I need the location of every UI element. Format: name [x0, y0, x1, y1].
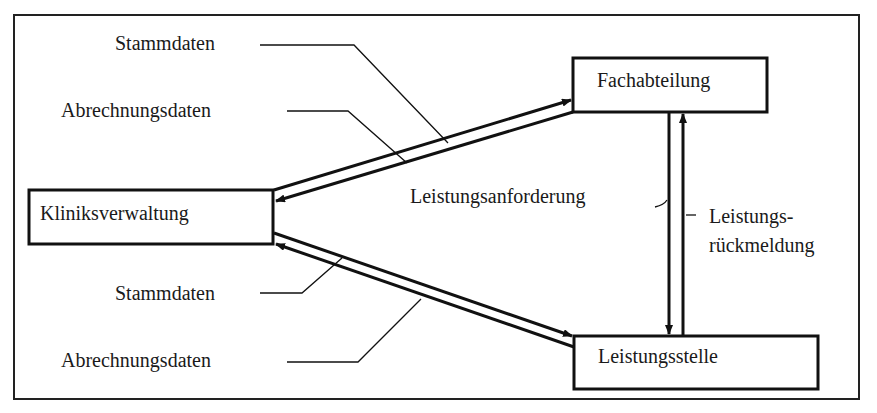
label-bottom-stammdaten: Stammdaten [115, 282, 215, 304]
leader-bottom-abrechnung [287, 299, 421, 362]
label-leistungsanforderung: Leistungsanforderung [410, 185, 586, 208]
label-leistungsrueckmeldung-2: rückmeldung [709, 234, 815, 257]
node-leistungsstelle[interactable]: Leistungsstelle [574, 336, 818, 389]
node-fachabteilung-label: Fachabteilung [597, 69, 710, 92]
label-bottom-abrechnungsdaten: Abrechnungsdaten [61, 349, 211, 372]
node-kliniksverwaltung[interactable]: Kliniksverwaltung [29, 190, 273, 244]
label-leistungsrueckmeldung-1: Leistungs- [709, 205, 793, 228]
arrow-klinik-to-fach [274, 100, 571, 190]
node-leistungsstelle-label: Leistungsstelle [598, 345, 718, 368]
node-kliniksverwaltung-label: Kliniksverwaltung [40, 202, 189, 225]
leader-top-stammdaten [260, 45, 448, 143]
data-flow-diagram: Fachabteilung Kliniksverwaltung Leistung… [0, 0, 877, 413]
label-top-abrechnungsdaten: Abrechnungsdaten [61, 99, 211, 122]
arrow-leistung-to-klinik [276, 244, 574, 347]
leader-anforderung [655, 200, 667, 207]
node-fachabteilung[interactable]: Fachabteilung [573, 58, 767, 112]
label-top-stammdaten: Stammdaten [115, 32, 215, 54]
arrow-klinik-to-leistung [274, 233, 572, 336]
